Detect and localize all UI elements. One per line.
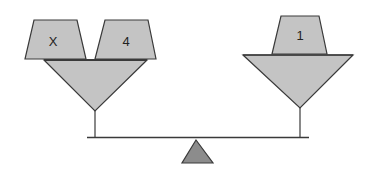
weight-4-label: 4	[122, 34, 129, 49]
weight-x-label: X	[49, 34, 58, 49]
left-pan-funnel	[44, 60, 147, 111]
fulcrum	[182, 140, 213, 163]
balance-scale-diagram: X 4 1	[0, 0, 379, 183]
right-pan-funnel	[243, 55, 353, 108]
weight-1: 1	[272, 16, 327, 54]
weight-1-label: 1	[296, 28, 303, 43]
weight-4: 4	[95, 20, 156, 59]
weight-x: X	[25, 20, 86, 59]
right-pan: 1	[243, 16, 353, 138]
left-pan: X 4	[25, 20, 156, 138]
